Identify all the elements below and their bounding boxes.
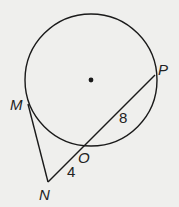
length-label-NO: 4 [67,163,75,180]
geometry-diagram: M N O P 4 8 [0,0,179,207]
diagram-canvas: M N O P 4 8 [0,0,179,207]
point-label-M: M [10,96,23,113]
point-label-P: P [158,61,168,78]
point-label-O: O [78,149,90,166]
point-label-N: N [39,186,50,203]
length-label-OP: 8 [119,109,127,126]
circle-center-dot [89,78,94,83]
tangent-segment-MN [28,104,48,182]
secant-segment-NP [48,75,155,182]
